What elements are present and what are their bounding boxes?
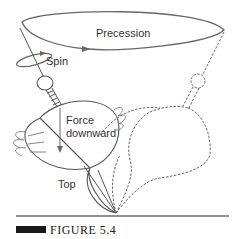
figure-caption: FIGURE 5.4: [50, 223, 116, 237]
spin-label: Spin: [46, 55, 68, 67]
precession-label: Precession: [96, 27, 150, 39]
force-label-line2: downward: [66, 127, 116, 139]
arrow-head-icon: [82, 46, 90, 52]
caption-bar: [16, 226, 46, 233]
top-knob: [37, 76, 53, 90]
spinning-top-precession-diagram: Precession Spin Force downward Top: [0, 0, 235, 239]
force-label-line1: Force: [66, 114, 94, 126]
top-label: Top: [58, 178, 76, 190]
